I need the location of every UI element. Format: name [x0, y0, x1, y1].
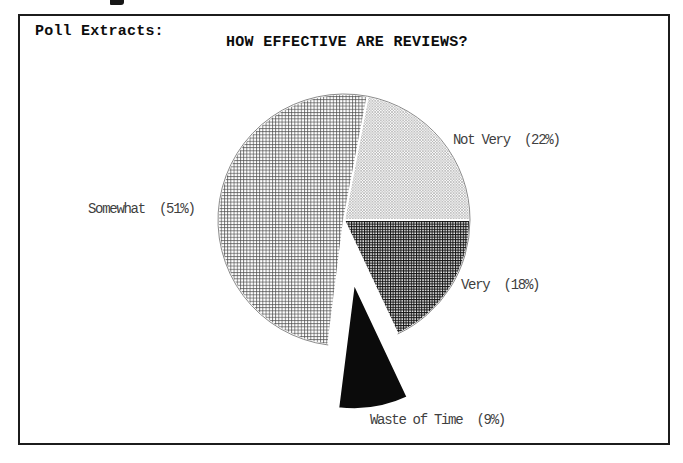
- slice-label-somewhat: Somewhat (51%): [88, 201, 195, 217]
- slice-label-very: Very (18%): [461, 277, 539, 293]
- slice-label-waste-of-time: Waste of Time (9%): [370, 412, 505, 428]
- slice-label-not-very: Not Very (22%): [453, 132, 560, 148]
- pie-chart: [0, 0, 683, 463]
